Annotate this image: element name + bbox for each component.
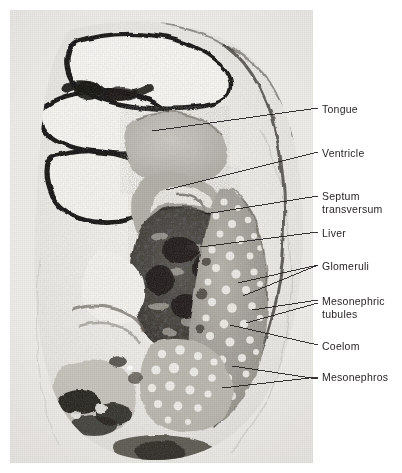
label-ventricle: Ventricle	[322, 147, 365, 160]
label-septum-transversum: Septum transversum	[322, 190, 383, 215]
label-tongue: Tongue	[322, 103, 358, 116]
section-artwork	[10, 10, 313, 463]
label-liver: Liver	[322, 227, 346, 240]
label-coelom: Coelom	[322, 340, 360, 353]
label-glomeruli: Glomeruli	[322, 260, 369, 273]
label-mesonephros: Mesonephros	[322, 371, 388, 384]
figure-plate: Tongue Ventricle Septum transversum Live…	[0, 0, 402, 473]
histology-photomicrograph	[10, 10, 313, 463]
label-mesonephric-tubules: Mesonephric tubules	[322, 295, 385, 320]
